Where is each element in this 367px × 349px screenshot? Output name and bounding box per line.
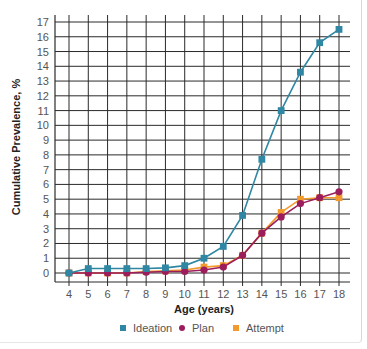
data-point	[297, 69, 304, 76]
data-point	[316, 194, 323, 201]
grid-lines	[55, 15, 350, 282]
data-point	[278, 107, 285, 114]
data-point	[162, 264, 169, 271]
data-point	[336, 26, 343, 33]
data-point	[220, 243, 227, 250]
data-point	[258, 230, 265, 237]
x-tick-label: 8	[143, 288, 149, 300]
data-point	[123, 265, 130, 272]
data-point	[201, 255, 208, 262]
y-tick-label: 5	[43, 193, 49, 205]
y-tick-label: 14	[37, 60, 49, 72]
ideation-swatch-icon	[120, 325, 126, 331]
chart-card: 01234567891011121314151617 4567891011121…	[0, 0, 362, 343]
y-tick-label: 10	[37, 119, 49, 131]
data-point	[200, 266, 207, 273]
legend-item-plan: Plan	[179, 322, 214, 334]
x-tick-label: 18	[333, 288, 345, 300]
data-point	[297, 200, 304, 207]
legend-item-ideation: Ideation	[120, 322, 172, 334]
x-tick-label: 11	[198, 288, 209, 300]
data-point	[239, 252, 246, 259]
legend: IdeationPlanAttempt	[120, 322, 284, 334]
x-tick-label: 4	[66, 288, 72, 300]
legend-label: Plan	[192, 322, 214, 334]
x-tick-label: 10	[179, 288, 191, 300]
y-tick-label: 11	[38, 105, 49, 117]
y-axis-label: Cumulative Prevalence, %	[10, 79, 22, 216]
x-axis-label: Age (years)	[174, 303, 234, 315]
x-tick-label: 5	[85, 288, 91, 300]
y-tick-label: 6	[43, 178, 49, 190]
legend-label: Attempt	[246, 322, 284, 334]
data-point	[258, 156, 265, 163]
data-point	[220, 263, 227, 270]
y-tick-label: 0	[43, 267, 49, 279]
x-tick-label: 14	[256, 288, 268, 300]
y-tick-label: 9	[43, 134, 49, 146]
data-point	[278, 213, 285, 220]
y-tick-label: 3	[43, 223, 49, 235]
x-tick-label: 13	[236, 288, 248, 300]
line-chart: 01234567891011121314151617 4567891011121…	[0, 0, 367, 349]
x-tick-label: 6	[105, 288, 111, 300]
legend-item-attempt: Attempt	[233, 322, 284, 334]
y-tick-label: 17	[37, 16, 49, 28]
y-tick-label: 15	[37, 46, 49, 58]
x-tick-label: 15	[275, 288, 287, 300]
data-point	[335, 188, 342, 195]
attempt-swatch-icon	[233, 325, 239, 331]
legend-label: Ideation	[133, 322, 172, 334]
data-point	[143, 265, 150, 272]
y-tick-label: 1	[43, 252, 49, 264]
data-point	[181, 262, 188, 269]
x-tick-label: 12	[217, 288, 229, 300]
y-tick-label: 13	[37, 75, 49, 87]
y-axis-ticks: 01234567891011121314151617	[37, 16, 49, 279]
plan-swatch-icon	[179, 325, 185, 331]
x-tick-label: 16	[294, 288, 306, 300]
data-point	[66, 270, 73, 277]
y-tick-label: 8	[43, 149, 49, 161]
y-tick-label: 4	[43, 208, 49, 220]
data-point	[316, 39, 323, 46]
y-tick-label: 2	[43, 237, 49, 249]
x-tick-label: 7	[124, 288, 130, 300]
data-point	[239, 212, 246, 219]
y-tick-label: 7	[43, 164, 49, 176]
x-tick-label: 17	[314, 288, 326, 300]
data-point	[104, 265, 111, 272]
x-tick-label: 9	[162, 288, 168, 300]
x-axis-ticks: 456789101112131415161718	[66, 282, 345, 300]
data-point	[85, 265, 92, 272]
y-tick-label: 12	[37, 90, 49, 102]
y-tick-label: 16	[37, 31, 49, 43]
